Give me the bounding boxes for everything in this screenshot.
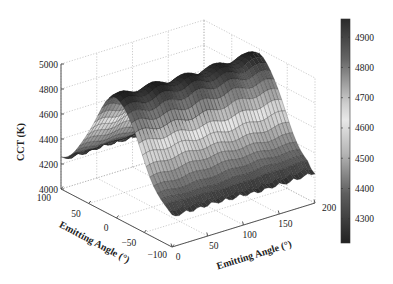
y-tick-label: −100 [147, 250, 167, 260]
x-tick-label: 0 [176, 252, 181, 262]
z-tick-label: 4200 [39, 160, 58, 170]
y-tick-label: 0 [104, 223, 109, 233]
colorbar-tick-label: 4400 [355, 184, 374, 194]
y-tick-label: −50 [121, 238, 136, 248]
colorbar-tick-label: 4300 [355, 214, 374, 224]
y-tick-label: 100 [37, 193, 52, 203]
x-tick-label: 200 [322, 203, 337, 213]
z-tick-label: 4400 [39, 135, 58, 145]
z-tick-label: 4600 [39, 110, 58, 120]
colorbar-tick-label: 4800 [355, 63, 374, 73]
x-tick-label: 100 [242, 230, 257, 240]
x-axis-label: Emitting Angle (°) [215, 238, 293, 272]
y-tick-label: 50 [71, 209, 81, 219]
colorbar-tick-label: 4900 [355, 33, 374, 43]
x-tick-label: 150 [278, 219, 293, 229]
colorbar-tick-label: 4700 [355, 93, 374, 103]
colorbar [341, 19, 350, 243]
surface-chart: 400042004400460048005000100500−50−100050… [0, 0, 393, 284]
z-tick-label: 4800 [39, 85, 58, 95]
colorbar-tick-label: 4600 [355, 123, 374, 133]
surface-mesh [61, 52, 315, 216]
z-axis-label: CCT (K) [15, 123, 27, 161]
z-tick-label: 5000 [39, 60, 58, 70]
colorbar-tick-label: 4500 [355, 154, 374, 164]
x-tick-label: 50 [209, 241, 219, 251]
